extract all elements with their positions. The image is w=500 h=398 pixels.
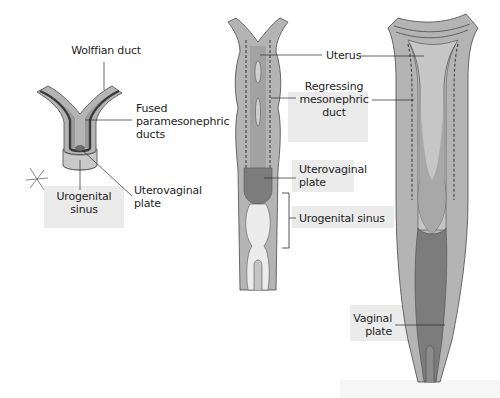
label-text: sinus (44, 203, 124, 216)
label-text: plate (340, 325, 392, 338)
label-text: ducts (136, 128, 236, 141)
label-uterovaginal-plate-stage1: Uterovaginal plate (134, 184, 224, 210)
label-regressing-mesonephric-duct: Regressing mesonephric duct (294, 80, 374, 119)
stage-1-illustration (26, 62, 132, 196)
label-text: paramesonephric (136, 115, 236, 128)
label-uterovaginal-plate-stage2: Uterovaginal plate (299, 163, 389, 189)
label-text: Urogenital sinus (299, 212, 385, 225)
label-text: Uterovaginal (299, 163, 389, 176)
label-text: Vaginal (340, 312, 392, 325)
label-text: Uterovaginal (134, 184, 224, 197)
label-vaginal-plate: Vaginal plate (340, 312, 392, 338)
label-text: Fused (136, 102, 236, 115)
label-text: duct (294, 106, 374, 119)
label-text: plate (299, 176, 389, 189)
label-urogenital-sinus-stage1: Urogenital sinus (44, 190, 124, 216)
label-text: Wolffian duct (71, 44, 141, 57)
label-uterus: Uterus (326, 49, 376, 62)
label-text: mesonephric (294, 93, 374, 106)
label-text: Urogenital (44, 190, 124, 203)
label-urogenital-sinus-stage2: Urogenital sinus (299, 212, 409, 225)
label-text: plate (134, 197, 224, 210)
label-fused-paramesonephric-ducts: Fused paramesonephric ducts (136, 102, 236, 141)
stage-2-illustration (228, 18, 322, 290)
label-text: Uterus (326, 49, 361, 62)
asterisk-mark-icon (26, 168, 48, 190)
label-text: Regressing (294, 80, 374, 93)
label-wolffian-duct: Wolffian duct (66, 44, 146, 57)
